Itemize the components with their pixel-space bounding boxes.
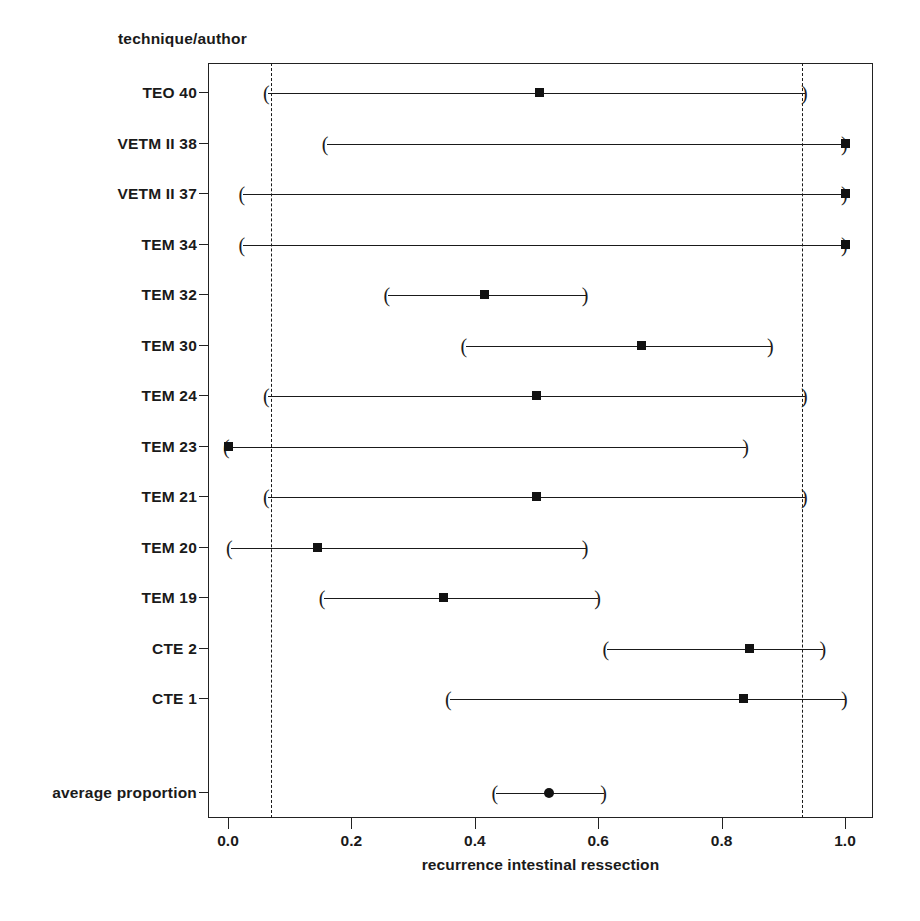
- x-axis-tick-label: 0.2: [341, 832, 363, 850]
- study-row: TEO 40(): [208, 80, 873, 106]
- y-axis-tick: [199, 547, 208, 548]
- y-axis-label-teo-40: TEO 40: [142, 80, 208, 106]
- y-axis-tick: [199, 792, 208, 793]
- study-row: TEM 24(): [208, 383, 873, 409]
- study-row: CTE 1(): [208, 686, 873, 712]
- y-axis-label-tem-24: TEM 24: [142, 383, 208, 409]
- confidence-interval-line: [228, 447, 746, 448]
- y-axis-tick: [199, 193, 208, 194]
- point-estimate-marker: [841, 139, 850, 148]
- y-axis-tick: [199, 698, 208, 699]
- confidence-interval-line: [466, 346, 771, 347]
- point-estimate-marker: [841, 240, 850, 249]
- ci-lower-cap: (: [319, 589, 326, 607]
- ci-upper-cap: ): [582, 286, 589, 304]
- y-axis-tick: [199, 395, 208, 396]
- ci-lower-cap: (: [445, 690, 452, 708]
- study-row: TEM 20(): [208, 535, 873, 561]
- point-estimate-marker: [439, 593, 448, 602]
- ci-upper-cap: ): [582, 539, 589, 557]
- study-row: TEM 30(): [208, 333, 873, 359]
- x-axis-tick-label: 0.4: [464, 832, 486, 850]
- ci-upper-cap: ): [600, 784, 607, 802]
- point-estimate-marker: [739, 694, 748, 703]
- confidence-interval-line: [327, 144, 845, 145]
- point-estimate-marker: [745, 644, 754, 653]
- ci-upper-cap: ): [742, 438, 749, 456]
- point-estimate-marker: [532, 391, 541, 400]
- ci-upper-cap: ): [594, 589, 601, 607]
- y-axis-label-tem-34: TEM 34: [142, 232, 208, 258]
- ci-upper-cap: ): [819, 640, 826, 658]
- ci-lower-cap: (: [383, 286, 390, 304]
- ci-lower-cap: (: [263, 488, 270, 506]
- plot-area: TEO 40()VETM II 38()VETM II 37()TEM 34()…: [208, 63, 873, 818]
- y-axis-label-tem-19: TEM 19: [142, 585, 208, 611]
- ci-upper-cap: ): [767, 337, 774, 355]
- ci-lower-cap: (: [226, 539, 233, 557]
- ci-upper-cap: ): [801, 387, 808, 405]
- x-axis-tick-label: 0.0: [217, 832, 239, 850]
- ci-lower-cap: (: [322, 135, 329, 153]
- y-axis-label-tem-20: TEM 20: [142, 535, 208, 561]
- x-axis-tick: [598, 818, 599, 829]
- ci-upper-cap: ): [801, 84, 808, 102]
- confidence-interval-line: [243, 194, 845, 195]
- summary-row: average proportion(): [208, 780, 873, 806]
- study-row: TEM 34(): [208, 232, 873, 258]
- x-axis-tick: [475, 818, 476, 829]
- ci-lower-cap: (: [263, 84, 270, 102]
- confidence-interval-line: [607, 649, 823, 650]
- point-estimate-marker: [224, 442, 233, 451]
- x-axis-tick: [228, 818, 229, 829]
- y-axis-tick: [199, 648, 208, 649]
- y-axis-tick: [199, 294, 208, 295]
- y-axis-tick: [199, 496, 208, 497]
- ci-lower-cap: (: [238, 236, 245, 254]
- confidence-interval-line: [243, 245, 845, 246]
- point-estimate-marker: [637, 341, 646, 350]
- ci-lower-cap: (: [238, 185, 245, 203]
- study-row: VETM II 37(): [208, 181, 873, 207]
- y-axis-label-average-proportion: average proportion: [52, 780, 208, 806]
- y-axis-tick: [199, 143, 208, 144]
- ci-lower-cap: (: [461, 337, 468, 355]
- ci-upper-cap: ): [841, 690, 848, 708]
- confidence-interval-line: [231, 548, 586, 549]
- y-axis-tick: [199, 92, 208, 93]
- point-estimate-marker: [313, 543, 322, 552]
- y-axis-label-tem-32: TEM 32: [142, 282, 208, 308]
- study-row: CTE 2(): [208, 636, 873, 662]
- x-axis-tick: [722, 818, 723, 829]
- x-axis: 0.00.20.40.60.81.0: [208, 818, 873, 830]
- x-axis-title: recurrence intestinal ressection: [208, 856, 873, 874]
- ci-lower-cap: (: [491, 784, 498, 802]
- confidence-interval-line: [324, 598, 599, 599]
- ci-lower-cap: (: [602, 640, 609, 658]
- forest-plot-page: technique/author TEO 40()VETM II 38()VET…: [0, 0, 920, 921]
- ci-upper-cap: ): [801, 488, 808, 506]
- point-estimate-marker: [841, 189, 850, 198]
- y-axis-label-tem-21: TEM 21: [142, 484, 208, 510]
- confidence-interval-line: [450, 699, 845, 700]
- y-axis-label-cte-1: CTE 1: [152, 686, 208, 712]
- x-axis-tick: [351, 818, 352, 829]
- y-axis-tick: [199, 446, 208, 447]
- x-axis-tick-label: 0.8: [711, 832, 733, 850]
- y-axis-label-cte-2: CTE 2: [152, 636, 208, 662]
- point-estimate-marker: [535, 88, 544, 97]
- y-axis-label-tem-23: TEM 23: [142, 434, 208, 460]
- y-axis-tick: [199, 244, 208, 245]
- study-row: TEM 23(): [208, 434, 873, 460]
- point-estimate-marker: [480, 290, 489, 299]
- summary-point-marker: [544, 788, 554, 798]
- y-axis-tick: [199, 597, 208, 598]
- study-row: TEM 19(): [208, 585, 873, 611]
- study-row: VETM II 38(): [208, 131, 873, 157]
- y-axis-label-vetm-ii-37: VETM II 37: [117, 181, 208, 207]
- point-estimate-marker: [532, 492, 541, 501]
- ci-lower-cap: (: [263, 387, 270, 405]
- y-axis-label-tem-30: TEM 30: [142, 333, 208, 359]
- y-axis-tick: [199, 345, 208, 346]
- x-axis-tick-label: 0.6: [587, 832, 609, 850]
